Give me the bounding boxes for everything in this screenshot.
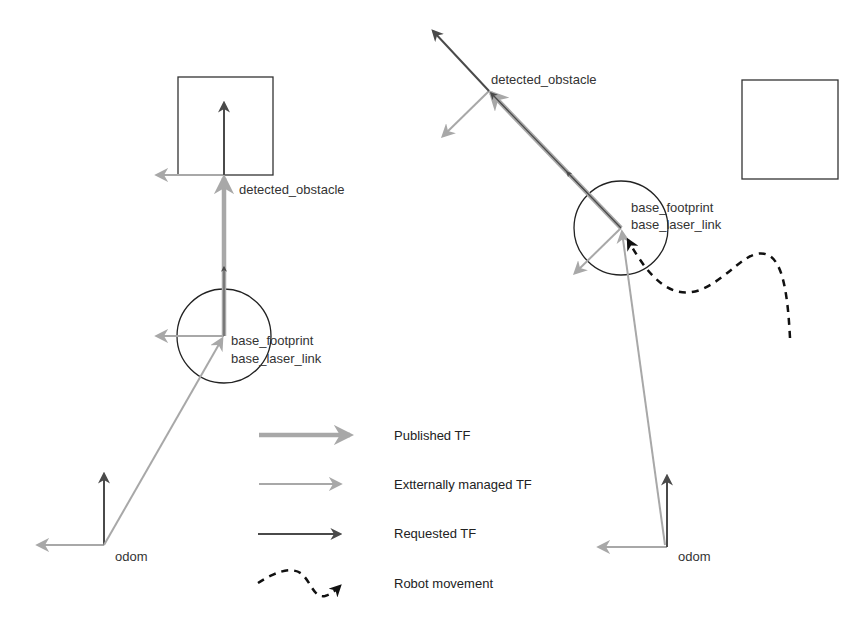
right-odom-label: odom	[678, 549, 711, 564]
left-base-laser-label: base_laser_link	[231, 351, 321, 366]
legend-label-external: Extternally managed TF	[394, 477, 532, 492]
left-odom-label: odom	[115, 549, 148, 564]
left-obstacle-box	[178, 77, 273, 175]
left-obstacle-label: detected_obstacle	[239, 182, 345, 197]
right-base-x-arrow	[575, 228, 621, 273]
left-scene	[38, 77, 273, 545]
right-scene	[433, 31, 838, 547]
right-obstacle-x-arrow	[443, 91, 489, 136]
legend-label-requested: Requested TF	[394, 526, 476, 541]
right-obstacle-box	[742, 80, 838, 179]
right-odom-to-base-arrow	[622, 232, 665, 545]
right-obstacle-label: detected_obstacle	[491, 72, 597, 87]
legend	[258, 435, 350, 596]
legend-label-published: Published TF	[394, 428, 470, 443]
right-base-footprint-label: base_footprint	[631, 200, 713, 215]
right-base-laser-label: base_laser_link	[631, 217, 721, 232]
right-robot-movement-path	[628, 240, 790, 338]
legend-movement-arrow	[258, 570, 340, 596]
left-base-footprint-label: base_footprint	[231, 333, 313, 348]
legend-label-movement: Robot movement	[394, 576, 493, 591]
right-requested-tf-arrow-a	[491, 93, 621, 228]
left-odom-to-base-arrow	[104, 339, 222, 545]
right-requested-tf-arrow-mid	[567, 172, 590, 196]
right-obstacle-y-arrow	[433, 31, 489, 91]
